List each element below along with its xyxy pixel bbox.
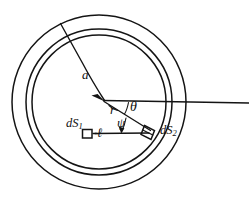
label-theta: θ xyxy=(130,100,137,114)
label-a: a xyxy=(82,68,89,81)
theta-angle-arc xyxy=(125,103,129,115)
horizontal-axis-line xyxy=(104,101,250,104)
label-ds1-prefix: dS xyxy=(66,116,79,130)
diagram-canvas xyxy=(0,0,249,204)
label-ds1-subscript: 1 xyxy=(79,121,83,131)
label-ds2: dS2 xyxy=(160,124,177,138)
label-ds2-prefix: dS xyxy=(160,123,173,137)
radiation-cavity-diagram: a r θ ψ dS1 ℓ dS2 xyxy=(0,0,249,204)
label-psi: ψ xyxy=(117,116,125,129)
inner-cavity-circle xyxy=(32,35,166,169)
label-r: r xyxy=(110,103,115,116)
label-ds1: dS1 xyxy=(66,117,83,131)
label-ds2-subscript: 2 xyxy=(173,128,177,138)
label-ell: ℓ xyxy=(97,126,102,139)
square-element-icon-ds1 xyxy=(83,130,93,139)
